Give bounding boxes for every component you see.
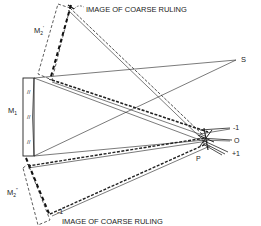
- ray-lower-bundle-4: [52, 146, 210, 216]
- ray-upper-bundle-4: [52, 82, 205, 136]
- ray-lower-bundle-3: [50, 144, 206, 214]
- focal-point-p: [198, 128, 232, 155]
- top-caption: IMAGE OF COARSE RULING: [86, 5, 187, 14]
- optical-diagram: // // // IMAGE OF COARSE RULING IMAGE OF…: [0, 0, 261, 226]
- label-point-p: P: [196, 155, 201, 162]
- label-order-minus1: -1: [233, 124, 239, 131]
- label-source-s: S: [241, 55, 246, 64]
- ray-upper-bundle-1: [70, 8, 203, 135]
- mirror-m2-double-prime-outline: [23, 164, 50, 225]
- label-order-plus1: +1: [232, 150, 240, 157]
- label-order-zero: O: [234, 137, 240, 144]
- label-bottom-order-minus1: -1: [57, 208, 63, 215]
- ray-m1-to-p-top: [34, 78, 200, 140]
- leader-line-top: [74, 6, 84, 9]
- ray-lower-bundle-2: [28, 141, 208, 168]
- label-m1: M1: [8, 106, 17, 116]
- hatch-mark: //: [27, 89, 31, 95]
- hatch-mark: //: [27, 139, 31, 145]
- label-m2-prime: M2': [34, 25, 44, 36]
- bottom-caption: IMAGE OF COARSE RULING: [62, 217, 163, 226]
- hatch-mark: //: [27, 114, 31, 120]
- ray-upper-bundle-2: [68, 10, 201, 138]
- ray-upper-bundle-3: [52, 80, 208, 132]
- label-m2-double-prime: M2": [7, 187, 18, 198]
- ray-s-to-m1-top: [34, 60, 236, 78]
